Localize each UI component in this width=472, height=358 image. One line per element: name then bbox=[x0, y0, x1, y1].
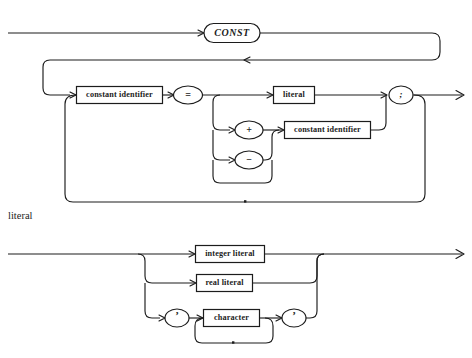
terminal-semicolon-label: ; bbox=[400, 89, 403, 99]
syntax-diagram-canvas: CONST constant identifier = literal bbox=[0, 0, 472, 358]
nonterminal-character[interactable]: character bbox=[204, 310, 260, 327]
rail-branch-quote bbox=[145, 283, 160, 318]
nonterminal-integer-literal-label: integer literal bbox=[205, 249, 255, 258]
nonterminal-literal-label: literal bbox=[283, 90, 306, 99]
terminal-minus[interactable]: − bbox=[235, 151, 263, 169]
diagram-const-declaration: CONST constant identifier = literal bbox=[8, 24, 464, 203]
terminal-open-quote-label: ’ bbox=[175, 309, 179, 321]
terminal-plus-label: + bbox=[246, 124, 252, 135]
terminal-open-quote[interactable]: ’ bbox=[165, 309, 189, 327]
nonterminal-literal[interactable]: literal bbox=[274, 87, 315, 104]
railroad-diagram-root: CONST constant identifier = literal bbox=[0, 0, 472, 358]
rail-branch-to-plus bbox=[213, 95, 230, 130]
rail-minus-join bbox=[263, 130, 279, 160]
direction-tick-const-loop bbox=[244, 200, 246, 202]
nonterminal-constant-identifier-2-label: constant identifier bbox=[294, 125, 361, 134]
terminal-const-label: CONST bbox=[214, 27, 250, 38]
rail-declaration-repeat-loop bbox=[65, 95, 425, 202]
nonterminal-constant-identifier-1-label: constant identifier bbox=[86, 90, 153, 99]
nonterminal-character-label: character bbox=[214, 313, 249, 322]
terminal-close-quote[interactable]: ’ bbox=[282, 309, 306, 327]
terminal-minus-label: − bbox=[246, 154, 252, 165]
section-label-literal: literal bbox=[8, 210, 33, 221]
rail-branch-to-minus bbox=[213, 130, 230, 160]
nonterminal-constant-identifier-2[interactable]: constant identifier bbox=[285, 122, 371, 139]
rail-closequote-rejoin bbox=[306, 254, 324, 318]
nonterminal-real-literal[interactable]: real literal bbox=[197, 275, 253, 292]
terminal-semicolon[interactable]: ; bbox=[389, 86, 413, 104]
terminal-equals-label: = bbox=[185, 89, 191, 100]
nonterminal-integer-literal[interactable]: integer literal bbox=[196, 246, 265, 263]
terminal-close-quote-label: ’ bbox=[292, 309, 296, 321]
diagram-literal: integer literal real literal ’ character bbox=[8, 246, 464, 344]
rail-branch-real-literal bbox=[145, 261, 195, 283]
terminal-const[interactable]: CONST bbox=[204, 24, 260, 43]
terminal-plus[interactable]: + bbox=[235, 121, 263, 139]
nonterminal-constant-identifier-1[interactable]: constant identifier bbox=[77, 87, 163, 104]
terminal-equals[interactable]: = bbox=[174, 86, 203, 104]
entry-rail-literal bbox=[8, 254, 145, 261]
nonterminal-real-literal-label: real literal bbox=[205, 278, 244, 287]
direction-tick-character-loop bbox=[232, 341, 234, 343]
rail-ident2-rejoin bbox=[371, 95, 387, 130]
